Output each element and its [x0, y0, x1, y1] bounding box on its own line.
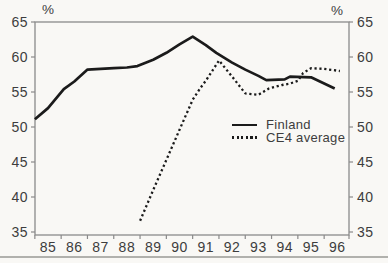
x-tick-label: 95 — [303, 239, 320, 255]
y-tick-label-right: 45 — [357, 154, 374, 170]
y-tick-label-left: 45 — [11, 154, 28, 170]
y-tick-label-right: 55 — [357, 84, 374, 100]
x-tick-label: 86 — [66, 239, 83, 255]
x-tick-label: 89 — [145, 239, 162, 255]
x-tick-label: 93 — [250, 239, 267, 255]
bottom-page-rule — [0, 256, 388, 258]
y-tick-label-right: 35 — [357, 224, 374, 240]
x-tick-label: 87 — [92, 239, 109, 255]
legend: Finland CE4 average — [232, 118, 345, 144]
x-tick-label: 91 — [198, 239, 215, 255]
x-tick-label: 88 — [119, 239, 136, 255]
series-line-finland — [35, 37, 335, 120]
y-tick-label-left: 35 — [11, 224, 28, 240]
legend-label-ce4-average: CE4 average — [266, 130, 345, 145]
y-tick-label-right: 50 — [357, 119, 374, 135]
y-tick-label-left: 55 — [11, 84, 28, 100]
y-tick-label-right: 40 — [357, 189, 374, 205]
y-axis-unit-left: % — [38, 2, 58, 17]
y-tick-label-right: 65 — [357, 14, 374, 30]
x-tick-label: 85 — [40, 239, 57, 255]
y-tick-label-left: 50 — [11, 119, 28, 135]
x-tick-label: 92 — [224, 239, 241, 255]
ce4-dotted-line-swatch — [232, 136, 257, 138]
x-tick-label: 90 — [171, 239, 188, 255]
x-tick-label: 94 — [276, 239, 293, 255]
x-tick-label: 96 — [329, 239, 346, 255]
legend-item-ce4-average: CE4 average — [232, 131, 345, 144]
y-tick-label-left: 65 — [11, 14, 28, 30]
y-tick-label-right: 60 — [357, 49, 374, 65]
y-tick-label-left: 60 — [11, 49, 28, 65]
y-axis-unit-right: % — [327, 3, 347, 18]
finland-solid-line-swatch — [232, 124, 257, 126]
y-tick-label-left: 40 — [11, 189, 28, 205]
